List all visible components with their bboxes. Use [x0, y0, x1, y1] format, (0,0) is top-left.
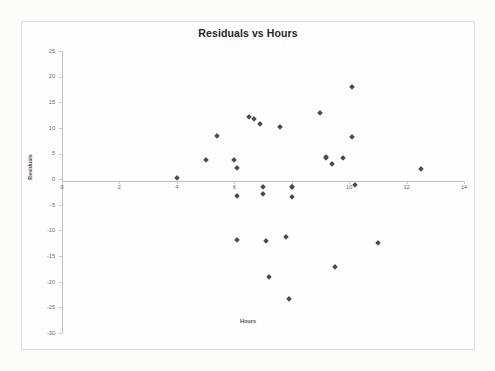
y-axis-tick	[59, 154, 62, 155]
x-axis-title: Hours	[22, 318, 474, 324]
y-axis-tick	[59, 230, 62, 231]
y-axis-tick	[59, 102, 62, 103]
y-axis-tick	[59, 77, 62, 78]
y-axis-tick	[59, 282, 62, 283]
page-background: Residuals vs Hours 2520151050-5-10-15-20…	[0, 0, 495, 371]
y-axis-tick-label: -15	[35, 253, 55, 259]
x-axis-tick-label: 2	[111, 184, 127, 190]
data-point	[251, 116, 257, 122]
x-axis-line	[62, 181, 464, 182]
data-point	[234, 237, 240, 243]
y-axis-tick-label: -10	[35, 227, 55, 233]
data-point	[317, 110, 323, 116]
scatter-plot-area: 2520151050-5-10-15-20-25-30 02468101214 …	[22, 22, 474, 349]
y-axis-tick	[59, 51, 62, 52]
y-axis-tick-label: 15	[35, 99, 55, 105]
x-axis-tick-label: 12	[399, 184, 415, 190]
y-axis-tick-label: -25	[35, 304, 55, 310]
data-point	[349, 134, 355, 140]
data-point	[375, 240, 381, 246]
y-axis-line	[62, 51, 63, 333]
data-point	[418, 166, 424, 172]
y-axis-tick-label: -30	[35, 330, 55, 336]
y-axis-tick	[59, 307, 62, 308]
y-axis-tick	[59, 128, 62, 129]
y-axis-tick-label: 20	[35, 73, 55, 79]
data-point	[234, 193, 240, 199]
chart-frame: Residuals vs Hours 2520151050-5-10-15-20…	[21, 21, 475, 350]
data-point	[289, 194, 295, 200]
y-axis-tick	[59, 256, 62, 257]
y-axis-tick-label: 25	[35, 48, 55, 54]
x-axis-tick-label: 6	[226, 184, 242, 190]
y-axis-tick-label: -5	[35, 202, 55, 208]
data-point	[332, 264, 338, 270]
y-axis-title: Residuals	[27, 145, 33, 189]
data-point	[286, 296, 292, 302]
x-axis-tick-label: 14	[456, 184, 472, 190]
data-point	[260, 191, 266, 197]
data-point	[277, 124, 283, 130]
y-axis-tick-label: 10	[35, 125, 55, 131]
data-point	[260, 184, 266, 190]
data-point	[329, 161, 335, 167]
data-point	[214, 133, 220, 139]
data-point	[266, 274, 272, 280]
data-point	[323, 155, 329, 161]
y-axis-tick	[59, 205, 62, 206]
data-point	[203, 157, 209, 163]
data-point	[340, 155, 346, 161]
data-point	[349, 84, 355, 90]
y-axis-tick-label: -20	[35, 279, 55, 285]
x-axis-tick-label: 0	[54, 184, 70, 190]
data-point	[234, 165, 240, 171]
y-axis-tick	[59, 333, 62, 334]
x-axis-tick-label: 4	[169, 184, 185, 190]
data-point	[283, 234, 289, 240]
data-point	[231, 157, 237, 163]
data-point	[263, 238, 269, 244]
y-axis-tick-label: 0	[35, 176, 55, 182]
y-axis-tick-label: 5	[35, 150, 55, 156]
data-point	[257, 121, 263, 127]
